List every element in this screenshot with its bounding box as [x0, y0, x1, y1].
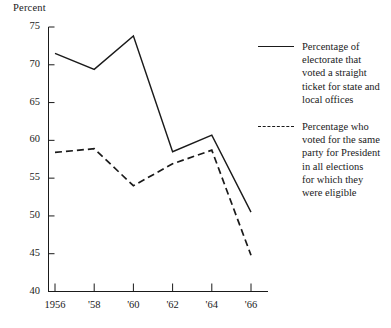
data-series-group [55, 36, 251, 255]
x-tick-label: '60 [127, 299, 139, 310]
x-tick-label: '66 [245, 299, 257, 310]
chart-legend: Percentage of electorate that voted a st… [258, 40, 391, 213]
legend-entry-same-party: Percentage who voted for the same party … [258, 120, 391, 199]
y-tick-label: 50 [14, 209, 40, 220]
legend-entry-straight-ticket: Percentage of electorate that voted a st… [258, 40, 391, 106]
x-tick-label: 1956 [45, 299, 66, 310]
x-tick-marks [55, 284, 251, 292]
y-tick-label: 70 [14, 58, 40, 69]
y-tick-label: 40 [14, 285, 40, 296]
x-tick-label: '64 [206, 299, 218, 310]
series-line-2 [55, 149, 251, 256]
x-tick-label: '58 [88, 299, 100, 310]
series-line-1 [55, 36, 251, 212]
chart-figure: Percent 4045505560657075 1956'58'60'62'6… [0, 0, 391, 328]
legend-label-same-party: Percentage who voted for the same party … [302, 120, 391, 199]
y-tick-label: 65 [14, 96, 40, 107]
legend-line-solid-icon [258, 46, 294, 47]
y-tick-label: 75 [14, 20, 40, 31]
y-tick-label: 60 [14, 133, 40, 144]
y-tick-label: 45 [14, 247, 40, 258]
legend-line-dashed-icon [258, 126, 294, 127]
y-tick-label: 55 [14, 171, 40, 182]
y-tick-marks [49, 27, 55, 292]
x-tick-label: '62 [166, 299, 178, 310]
axes [49, 27, 269, 292]
legend-label-straight-ticket: Percentage of electorate that voted a st… [302, 40, 391, 106]
